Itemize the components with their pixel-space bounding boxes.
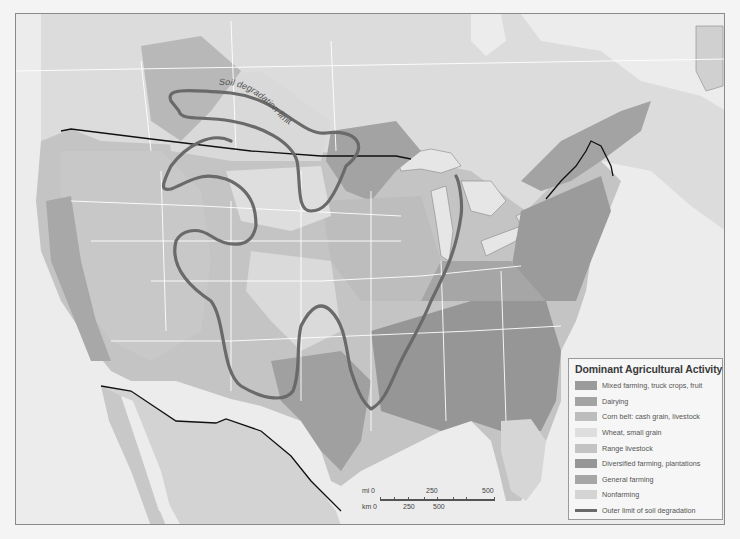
swatch-range-livestock	[575, 444, 597, 453]
swatch-dairying	[575, 397, 597, 406]
scale-mi-unit: mi	[362, 487, 369, 494]
legend-title: Dominant Agricultural Activity	[575, 363, 717, 375]
legend-item-dairying: Dairying	[575, 394, 717, 410]
scale-mi-tick-0: 0	[371, 487, 375, 494]
scale-km-tick-0: 0	[373, 503, 377, 510]
legend: Dominant Agricultural Activity Mixed far…	[568, 358, 723, 520]
scale-km-tick-500: 500	[433, 503, 445, 510]
legend-item-mixed-farming: Mixed farming, truck crops, fruit	[575, 378, 717, 394]
line-swatch-soil-degradation	[575, 509, 597, 512]
legend-item-nonfarming: Nonfarming	[575, 487, 717, 503]
swatch-general-farming	[575, 475, 597, 484]
swatch-nonfarming	[575, 490, 597, 499]
legend-item-diversified-farming: Diversified farming, plantations	[575, 456, 717, 472]
scale-bar: mi 0 250 500 km 0 250 500	[362, 485, 502, 515]
legend-item-corn-belt: Corn belt: cash grain, livestock	[575, 409, 717, 425]
legend-item-soil-degradation: Outer limit of soil degradation	[575, 503, 717, 519]
scale-km-unit: km	[362, 503, 371, 510]
swatch-wheat	[575, 428, 597, 437]
scale-km-tick-250: 250	[403, 503, 415, 510]
legend-item-general-farming: General farming	[575, 472, 717, 488]
swatch-diversified-farming	[575, 459, 597, 468]
legend-item-wheat: Wheat, small grain	[575, 425, 717, 441]
swatch-mixed-farming	[575, 381, 597, 390]
legend-item-range-livestock: Range livestock	[575, 440, 717, 456]
swatch-corn-belt	[575, 412, 597, 421]
scale-mi-tick-250: 250	[426, 487, 438, 494]
scale-mi-tick-500: 500	[482, 487, 494, 494]
